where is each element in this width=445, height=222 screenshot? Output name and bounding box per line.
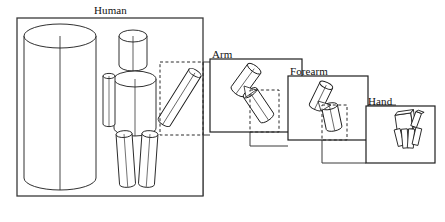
- right-leg-cylinder: [138, 130, 158, 188]
- diagram-canvas: [0, 0, 445, 222]
- panel-label-forearm: Forearm: [290, 65, 328, 77]
- panel-human: [17, 18, 203, 196]
- connector-forearm-to-hand-bottom: [322, 140, 366, 163]
- panel-forearm: [288, 76, 368, 140]
- head-cylinder: [119, 30, 147, 71]
- panel-label-hand: Hand: [368, 95, 392, 107]
- large-background-cylinder: [24, 24, 96, 190]
- left-arm-cylinder: [103, 73, 115, 126]
- left-leg-cylinder: [116, 130, 136, 188]
- panel-label-arm: Arm: [212, 48, 232, 60]
- connector-arm-to-forearm-bottom: [250, 132, 288, 146]
- panel-label-human: Human: [94, 4, 127, 16]
- part-decomposition-diagram: Human Arm Forearm Hand: [0, 0, 445, 222]
- panel-hand: [366, 106, 435, 163]
- torso-cylinder: [114, 71, 156, 136]
